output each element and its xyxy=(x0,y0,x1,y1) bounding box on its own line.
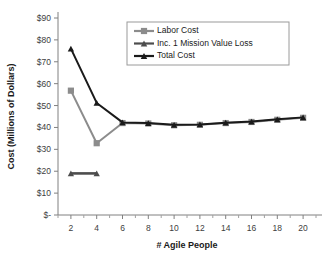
y-axis-tick-label: $60 xyxy=(37,79,51,89)
legend-swatch-marker xyxy=(141,28,147,34)
legend-label: Inc. 1 Mission Value Loss xyxy=(157,38,253,48)
x-axis-tick-label: 20 xyxy=(298,223,308,233)
x-axis-tick-label: 18 xyxy=(273,223,283,233)
data-point xyxy=(68,46,74,52)
x-axis-tick-label: 8 xyxy=(146,223,151,233)
x-axis-tick-label: 10 xyxy=(169,223,179,233)
y-axis-tick-label: $70 xyxy=(37,57,51,67)
data-point xyxy=(68,88,74,94)
y-axis-tick-label: $90 xyxy=(37,13,51,23)
y-axis-tick-label: $40 xyxy=(37,122,51,132)
data-point xyxy=(94,140,100,146)
chart-canvas: $-$10$20$30$40$50$60$70$80$9024681012141… xyxy=(0,0,328,276)
series-line xyxy=(71,91,303,144)
y-axis-tick-label: $10 xyxy=(37,188,51,198)
x-axis-tick-label: 14 xyxy=(221,223,231,233)
y-axis-tick-label: $30 xyxy=(37,144,51,154)
cost-vs-agile-people-chart: $-$10$20$30$40$50$60$70$80$9024681012141… xyxy=(0,0,328,276)
data-point xyxy=(94,100,100,106)
y-axis-tick-label: $80 xyxy=(37,35,51,45)
legend-label: Labor Cost xyxy=(157,25,199,35)
x-axis-tick-label: 2 xyxy=(69,223,74,233)
x-axis-title: # Agile People xyxy=(156,240,217,250)
series-inc-1-mission-value-loss xyxy=(68,171,100,177)
x-axis-tick-label: 12 xyxy=(195,223,205,233)
y-axis-title: Cost (Millions of Dollars) xyxy=(6,63,16,169)
y-axis-tick-label: $50 xyxy=(37,101,51,111)
series-labor-cost xyxy=(68,88,306,147)
x-axis-tick-label: 4 xyxy=(94,223,99,233)
legend-label: Total Cost xyxy=(157,50,195,60)
x-axis-tick-label: 16 xyxy=(247,223,257,233)
y-axis-tick-label: $- xyxy=(43,210,51,220)
y-axis-tick-label: $20 xyxy=(37,166,51,176)
x-axis-tick-label: 6 xyxy=(120,223,125,233)
